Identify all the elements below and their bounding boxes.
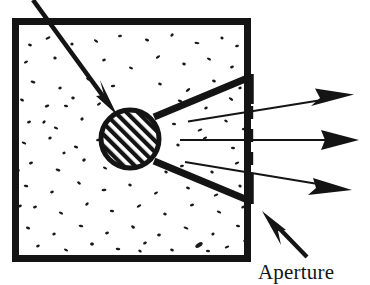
aperture-pointer-arrow xyxy=(262,211,307,257)
aperture-label: Aperture xyxy=(258,260,334,284)
scattered-ray-upper-arrowhead xyxy=(311,89,354,107)
scattered-ray-middle-arrowhead xyxy=(321,130,359,150)
diagram-canvas: Aperture xyxy=(0,0,370,285)
aperture-pointer-arrowhead xyxy=(262,211,286,245)
scattered-ray-lower-arrowhead xyxy=(308,178,352,195)
speckle-dot xyxy=(70,43,73,46)
scattering-aperture-figure: Aperture xyxy=(0,0,370,285)
